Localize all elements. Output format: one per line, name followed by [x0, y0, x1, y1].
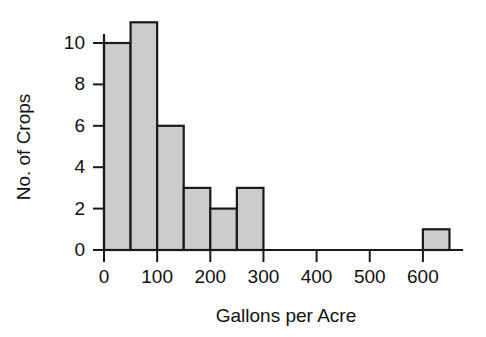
y-axis-tick-label: 4: [74, 156, 85, 177]
histogram-bar: [210, 209, 237, 250]
x-axis-tick-label: 300: [248, 266, 280, 287]
histogram-bar: [237, 188, 264, 250]
histogram-bar: [131, 22, 158, 250]
histogram-bar: [104, 43, 131, 250]
y-axis-tick-label: 6: [74, 115, 85, 136]
histogram-figure: 0246810 0100200300400500600 Gallons per …: [0, 0, 486, 337]
histogram-bars: [104, 22, 449, 250]
x-axis-tick-label: 100: [141, 266, 173, 287]
x-axis-tick-label: 400: [301, 266, 333, 287]
x-axis-tick-label: 200: [194, 266, 226, 287]
y-axis-tick-label: 10: [64, 32, 85, 53]
y-axis-tick-label: 2: [74, 198, 85, 219]
y-axis-ticks: 0246810: [64, 32, 104, 260]
x-axis-tick-label: 0: [99, 266, 110, 287]
histogram-bar: [423, 229, 450, 250]
y-axis-tick-label: 0: [74, 239, 85, 260]
histogram-bar: [184, 188, 211, 250]
x-axis-title: Gallons per Acre: [216, 305, 356, 326]
x-axis-tick-label: 600: [407, 266, 439, 287]
x-axis-ticks: 0100200300400500600: [99, 250, 439, 287]
histogram-plot-area: 0246810 0100200300400500600 Gallons per …: [0, 0, 486, 337]
y-axis-tick-label: 8: [74, 73, 85, 94]
histogram-bar: [157, 126, 184, 250]
y-axis-title: No. of Crops: [13, 94, 34, 201]
x-axis-tick-label: 500: [354, 266, 386, 287]
